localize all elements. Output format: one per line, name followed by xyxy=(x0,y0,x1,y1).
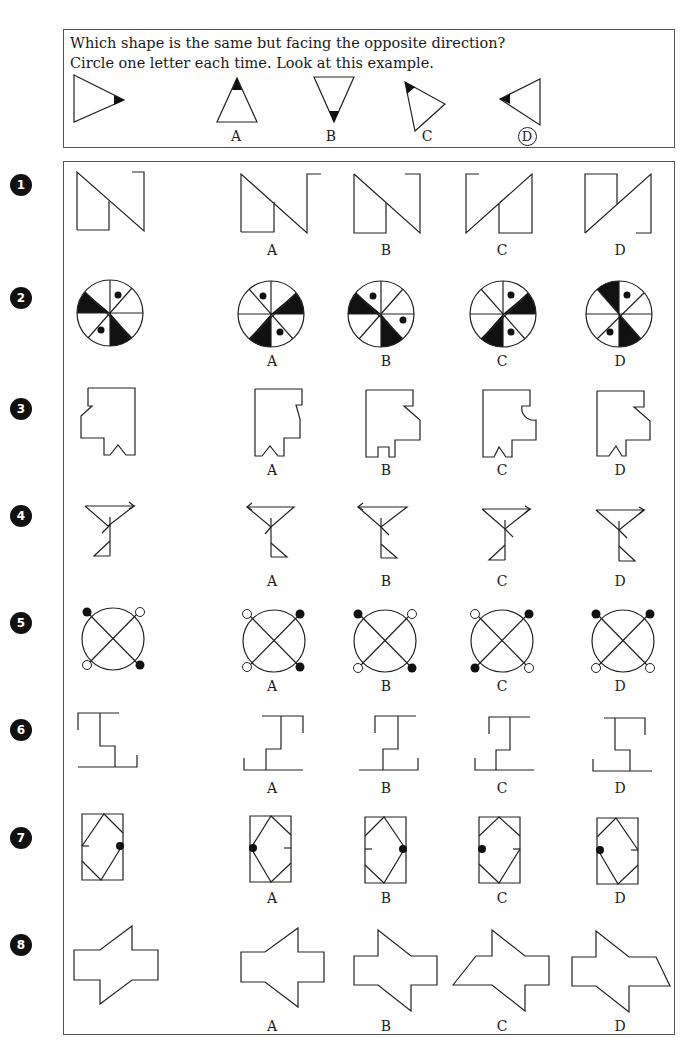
q8-option-c-shape[interactable] xyxy=(452,929,556,1014)
question-number-7: 7 xyxy=(10,827,32,849)
q2-option-a-shape[interactable] xyxy=(237,280,305,348)
q1-option-b-label[interactable]: B xyxy=(371,242,401,258)
example-option-c-shape[interactable] xyxy=(403,80,448,135)
q8-option-c-label[interactable]: C xyxy=(487,1018,517,1034)
q4-option-d-shape[interactable] xyxy=(595,507,651,572)
instruction-line-1: Which shape is the same but facing the o… xyxy=(70,34,505,52)
q2-option-a-label[interactable]: A xyxy=(257,353,287,369)
question-number-1: 1 xyxy=(10,174,32,196)
circled-answer[interactable]: D xyxy=(518,127,537,146)
example-option-a-shape[interactable] xyxy=(215,75,260,125)
question-number-5: 5 xyxy=(10,612,32,634)
q8-prompt-shape xyxy=(73,925,161,1010)
q6-prompt-shape xyxy=(76,711,141,771)
q7-option-b-label[interactable]: B xyxy=(371,890,401,906)
q2-option-b-shape[interactable] xyxy=(347,280,415,348)
q7-option-d-label[interactable]: D xyxy=(605,890,635,906)
q5-option-b-label[interactable]: B xyxy=(371,678,401,694)
q8-option-d-shape[interactable] xyxy=(571,930,675,1015)
q2-prompt-shape xyxy=(76,279,144,347)
q7-option-d-shape[interactable] xyxy=(596,817,642,887)
q5-option-c-shape[interactable] xyxy=(467,606,537,676)
q2-option-d-shape[interactable] xyxy=(585,280,653,348)
example-option-b-shape[interactable] xyxy=(312,75,357,125)
q4-option-c-shape[interactable] xyxy=(481,506,537,571)
q7-prompt-shape xyxy=(81,813,127,883)
q8-option-b-shape[interactable] xyxy=(353,929,441,1014)
q6-option-c-label[interactable]: C xyxy=(487,780,517,796)
q7-option-a-label[interactable]: A xyxy=(257,890,287,906)
example-option-c-label[interactable]: C xyxy=(412,128,442,144)
q4-option-a-shape[interactable] xyxy=(246,503,302,568)
q3-option-c-label[interactable]: C xyxy=(487,462,517,478)
q4-prompt-shape xyxy=(84,501,140,566)
q4-option-b-shape[interactable] xyxy=(357,503,413,568)
q6-option-b-label[interactable]: B xyxy=(371,780,401,796)
q7-option-c-label[interactable]: C xyxy=(487,890,517,906)
q1-option-a-label[interactable]: A xyxy=(257,242,287,258)
instruction-line-2: Circle one letter each time. Look at thi… xyxy=(70,54,434,72)
q1-option-d-label[interactable]: D xyxy=(605,242,635,258)
q1-option-c-label[interactable]: C xyxy=(487,242,517,258)
example-option-a-label[interactable]: A xyxy=(221,128,251,144)
q4-option-a-label[interactable]: A xyxy=(257,573,287,589)
q7-option-b-shape[interactable] xyxy=(364,816,410,886)
example-option-b-label[interactable]: B xyxy=(316,128,346,144)
q7-option-a-shape[interactable] xyxy=(249,815,295,885)
q3-option-d-label[interactable]: D xyxy=(605,462,635,478)
q6-option-a-label[interactable]: A xyxy=(257,780,287,796)
q8-option-a-shape[interactable] xyxy=(240,927,328,1012)
question-number-3: 3 xyxy=(10,398,32,420)
q1-option-d-shape[interactable] xyxy=(584,173,654,238)
q8-option-a-label[interactable]: A xyxy=(257,1018,287,1034)
q7-option-c-shape[interactable] xyxy=(478,816,524,886)
question-number-8: 8 xyxy=(10,934,32,956)
q3-option-c-shape[interactable] xyxy=(482,389,542,461)
q8-option-d-label[interactable]: D xyxy=(605,1018,635,1034)
q5-option-b-shape[interactable] xyxy=(350,606,420,676)
q2-option-c-shape[interactable] xyxy=(469,280,537,348)
q5-option-a-label[interactable]: A xyxy=(257,678,287,694)
q3-prompt-shape xyxy=(80,387,140,459)
q5-option-d-label[interactable]: D xyxy=(605,678,635,694)
q6-option-a-shape[interactable] xyxy=(242,714,307,774)
example-option-d-label[interactable]: D xyxy=(512,127,542,146)
q2-option-c-label[interactable]: C xyxy=(487,353,517,369)
question-number-6: 6 xyxy=(10,719,32,741)
q6-option-c-shape[interactable] xyxy=(473,715,538,775)
q3-option-d-shape[interactable] xyxy=(596,390,656,462)
q4-option-c-label[interactable]: C xyxy=(487,573,517,589)
q4-option-d-label[interactable]: D xyxy=(605,573,635,589)
example-option-d-shape[interactable] xyxy=(498,77,543,127)
question-number-4: 4 xyxy=(10,505,32,527)
q1-option-b-shape[interactable] xyxy=(353,173,423,238)
q8-option-b-label[interactable]: B xyxy=(371,1018,401,1034)
question-number-2: 2 xyxy=(10,287,32,309)
q2-option-b-label[interactable]: B xyxy=(371,353,401,369)
q3-option-b-label[interactable]: B xyxy=(371,462,401,478)
q3-option-a-label[interactable]: A xyxy=(257,462,287,478)
q3-option-a-shape[interactable] xyxy=(254,388,309,460)
q4-option-b-label[interactable]: B xyxy=(371,573,401,589)
q1-prompt-shape xyxy=(75,170,145,235)
q5-option-c-label[interactable]: C xyxy=(487,678,517,694)
q3-option-b-shape[interactable] xyxy=(365,389,425,461)
q5-prompt-shape xyxy=(78,604,148,674)
q6-option-d-label[interactable]: D xyxy=(605,780,635,796)
example-prompt-shape xyxy=(70,72,130,122)
q6-option-b-shape[interactable] xyxy=(357,714,422,774)
q1-option-a-shape[interactable] xyxy=(239,172,309,237)
q6-option-d-shape[interactable] xyxy=(591,716,656,776)
q5-option-a-shape[interactable] xyxy=(239,606,309,676)
q5-option-d-shape[interactable] xyxy=(588,606,658,676)
q1-option-c-shape[interactable] xyxy=(465,173,535,238)
q2-option-d-label[interactable]: D xyxy=(605,353,635,369)
